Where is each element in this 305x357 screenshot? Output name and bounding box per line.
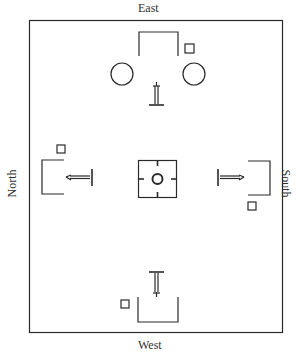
east-marker-square bbox=[185, 44, 194, 53]
west-marker-square bbox=[121, 300, 129, 308]
east-figure bbox=[149, 82, 164, 105]
north-enclosure bbox=[42, 160, 64, 194]
center-altar bbox=[139, 161, 177, 198]
north-figure bbox=[66, 169, 92, 186]
east-enclosure bbox=[139, 32, 178, 56]
south-marker-square bbox=[248, 202, 256, 210]
west-enclosure bbox=[138, 297, 178, 322]
east-circle-left bbox=[111, 63, 133, 85]
south-figure bbox=[218, 169, 244, 186]
north-marker-square bbox=[57, 145, 65, 153]
site-plan bbox=[0, 0, 305, 357]
south-enclosure bbox=[248, 161, 270, 195]
west-figure bbox=[149, 272, 164, 297]
east-circle-right bbox=[183, 63, 205, 85]
